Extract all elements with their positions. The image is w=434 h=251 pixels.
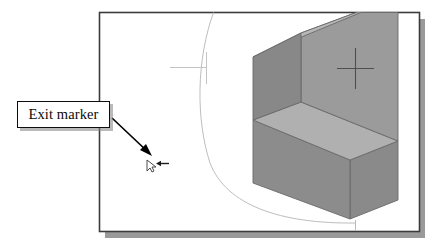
exit-arrow-head-icon	[156, 161, 161, 166]
exit-marker-cursor	[147, 160, 169, 172]
exit-marker-callout: Exit marker	[17, 101, 110, 128]
exit-marker-callout-label: Exit marker	[29, 107, 99, 122]
leader-line	[112, 118, 148, 152]
cursor-pointer-icon	[147, 160, 156, 172]
figure-canvas: Exit marker	[0, 0, 434, 251]
